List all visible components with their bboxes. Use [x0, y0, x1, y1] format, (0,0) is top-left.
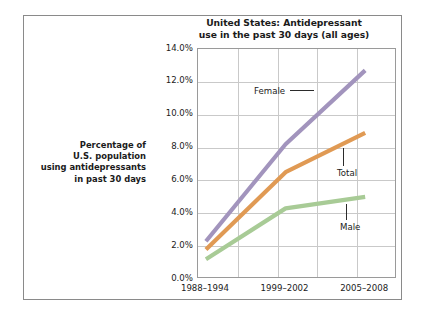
y-axis-tick-labels: 0.0%2.0%4.0%6.0%8.0%10.0%12.0%14.0%	[145, 48, 193, 278]
annotation-male: Male	[340, 222, 360, 232]
plot-area	[197, 48, 396, 278]
y-tick-label: 6.0%	[149, 175, 193, 184]
leader-line-male	[346, 204, 347, 220]
x-tick-label: 2005–2008	[319, 283, 409, 293]
chart-title-line-1: United States: Antidepressant	[170, 17, 398, 29]
series-lines	[198, 49, 397, 279]
series-line-female	[206, 70, 365, 241]
y-tick-label: 2.0%	[149, 241, 193, 250]
y-axis-label-line-4: in past 30 days	[26, 174, 146, 185]
y-tick-label: 12.0%	[149, 76, 193, 85]
x-tick-label: 1999–2002	[240, 283, 330, 293]
y-tick-label: 8.0%	[149, 142, 193, 151]
x-axis-tick-labels: 1988–19941999–20022005–2008	[197, 283, 396, 297]
annotation-total: Total	[337, 168, 357, 178]
annotation-female: Female	[254, 86, 285, 96]
y-tick-label: 4.0%	[149, 208, 193, 217]
y-tick-label: 14.0%	[149, 44, 193, 53]
chart-title: United States: Antidepressant use in the…	[170, 17, 398, 41]
y-tick-label: 0.0%	[149, 274, 193, 283]
leader-line-female	[290, 90, 314, 91]
leader-line-total	[343, 148, 344, 166]
x-tick-label: 1988–1994	[160, 283, 250, 293]
chart-figure: United States: Antidepressant use in the…	[0, 0, 423, 315]
chart-title-line-2: use in the past 30 days (all ages)	[170, 29, 398, 41]
y-axis-label-line-2: U.S. population	[26, 151, 146, 162]
y-axis-label: Percentage of U.S. population using anti…	[26, 140, 146, 185]
y-axis-label-line-3: using antidepressants	[26, 162, 146, 173]
y-axis-label-line-1: Percentage of	[26, 140, 146, 151]
y-tick-label: 10.0%	[149, 109, 193, 118]
